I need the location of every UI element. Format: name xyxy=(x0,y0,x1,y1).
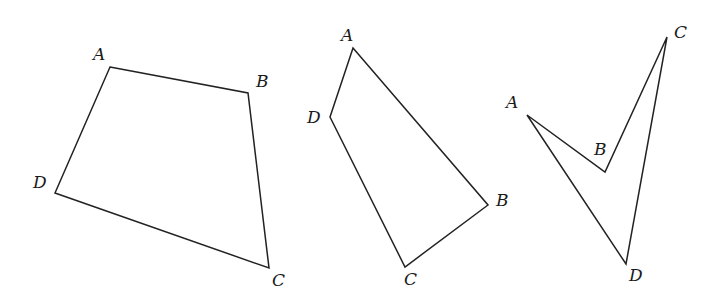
vertex-label-b: B xyxy=(255,71,269,91)
vertex-label-b: B xyxy=(593,139,607,159)
figure-1: A B C D xyxy=(32,44,285,290)
vertex-label-a: A xyxy=(339,25,353,45)
quadrilaterals-diagram: A B C D A B C D A B C D xyxy=(0,0,720,305)
vertex-label-d: D xyxy=(32,172,47,192)
vertex-label-b: B xyxy=(495,190,509,210)
vertex-label-a: A xyxy=(91,44,105,64)
figure-3: A B C D xyxy=(504,22,687,285)
quadrilateral-abcd-1 xyxy=(55,67,269,268)
vertex-label-a: A xyxy=(504,92,518,112)
vertex-label-d: D xyxy=(628,265,643,285)
quadrilateral-abcd-2 xyxy=(330,48,488,267)
figure-2: A B C D xyxy=(306,25,509,289)
vertex-label-c: C xyxy=(404,269,417,289)
vertex-label-d: D xyxy=(306,107,321,127)
vertex-label-c: C xyxy=(272,270,285,290)
vertex-label-c: C xyxy=(674,22,687,42)
